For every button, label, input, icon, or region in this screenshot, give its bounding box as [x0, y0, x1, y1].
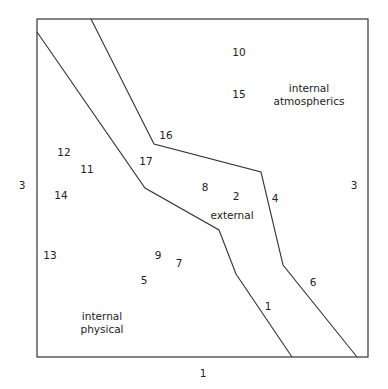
- point-label: 12: [57, 147, 70, 158]
- lower-boundary-line: [37, 32, 292, 357]
- point-label: 1: [265, 301, 272, 312]
- upper-boundary-line: [91, 19, 357, 357]
- point-label: 4: [272, 193, 279, 204]
- bottom-axis-label: 1: [200, 368, 207, 379]
- left-axis-label: 3: [19, 180, 26, 191]
- point-label: 10: [232, 47, 245, 58]
- point-label: 9: [155, 250, 162, 261]
- region-label-internal-atmospherics: internal atmospherics: [274, 82, 345, 108]
- point-label: 11: [80, 164, 93, 175]
- region-label-external: external: [210, 209, 253, 222]
- region-line: physical: [80, 323, 123, 336]
- region-line: external: [210, 209, 253, 222]
- point-label: 17: [139, 156, 152, 167]
- point-label: 13: [43, 250, 56, 261]
- point-label: 2: [233, 191, 240, 202]
- region-label-internal-physical: internal physical: [80, 310, 123, 336]
- point-label: 8: [202, 182, 209, 193]
- region-line: internal: [274, 82, 345, 95]
- point-label: 5: [141, 275, 148, 286]
- point-label: 14: [54, 190, 67, 201]
- point-label: 7: [176, 258, 183, 269]
- point-label: 6: [310, 277, 317, 288]
- point-label: 16: [159, 130, 172, 141]
- right-axis-label: 3: [351, 180, 358, 191]
- point-label: 15: [232, 89, 245, 100]
- region-line: internal: [80, 310, 123, 323]
- region-line: atmospherics: [274, 95, 345, 108]
